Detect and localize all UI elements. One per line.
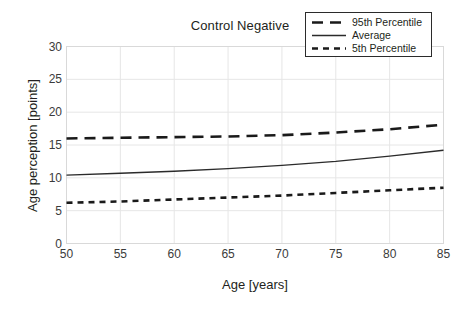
legend-label-5th: 5th Percentile (352, 42, 416, 55)
data-series-group (67, 125, 444, 203)
x-tick-label: 70 (267, 248, 297, 260)
grid-lines (67, 47, 444, 244)
y-tick-label: 20 (36, 106, 62, 118)
x-axis-title: Age [years] (66, 277, 444, 292)
legend-item-95th: 95th Percentile (311, 16, 429, 29)
series-line-1 (67, 150, 444, 175)
chart-container: Control Negative Age perception [points]… (0, 0, 471, 312)
x-tick-label: 65 (213, 248, 243, 260)
x-tick-label: 55 (105, 248, 135, 260)
x-tick-label: 60 (159, 248, 189, 260)
y-axis-tick-labels: 051015202530 (32, 0, 62, 312)
y-tick-label: 30 (36, 41, 62, 53)
chart-title: Control Negative (175, 18, 305, 33)
legend-label-95th: 95th Percentile (352, 16, 422, 29)
x-tick-label: 80 (375, 248, 405, 260)
legend-item-5th: 5th Percentile (311, 42, 429, 55)
legend-item-average: Average (311, 29, 429, 42)
x-tick-label: 50 (52, 248, 82, 260)
legend-label-average: Average (352, 29, 391, 42)
series-line-0 (67, 125, 444, 139)
y-tick-label: 5 (36, 205, 62, 217)
legend-swatch-long-dash-icon (311, 16, 347, 29)
legend-swatch-solid-icon (311, 29, 347, 42)
x-tick-label: 85 (429, 248, 459, 260)
y-tick-label: 15 (36, 139, 62, 151)
y-tick-label: 25 (36, 73, 62, 85)
series-line-2 (67, 188, 444, 203)
x-tick-label: 75 (321, 248, 351, 260)
legend-swatch-short-dash-icon (311, 42, 347, 55)
legend: 95th Percentile Average 5th Percentile (305, 12, 432, 57)
y-tick-label: 10 (36, 172, 62, 184)
